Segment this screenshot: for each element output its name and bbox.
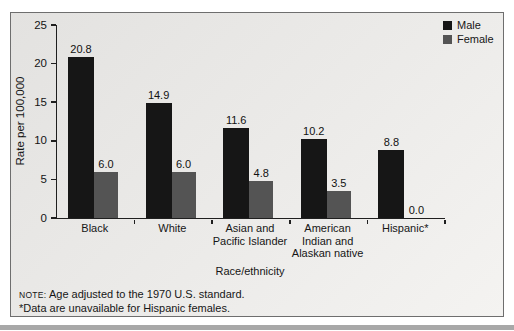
y-tick-label: 15: [21, 96, 47, 109]
note-prefix: NOTE:: [19, 290, 46, 300]
value-label-male-3: 10.2: [296, 125, 332, 137]
x-axis-title: Race/ethnicity: [56, 265, 444, 277]
y-tick-label: 10: [21, 134, 47, 147]
y-tick-label: 20: [21, 57, 47, 70]
category-label-4: Hispanic*: [358, 222, 452, 235]
y-tick-mark: [51, 101, 57, 103]
category-labels: BlackWhiteAsian and Pacific IslanderAmer…: [56, 222, 444, 262]
figure: Rate per 100,000 051015202520.814.911.61…: [0, 0, 514, 331]
legend-swatch-female: [443, 35, 452, 44]
y-tick-mark: [51, 63, 57, 65]
legend: MaleFemale: [443, 19, 494, 47]
bar-male-0: [68, 57, 94, 218]
y-tick-mark: [51, 24, 57, 26]
bar-female-1: [172, 172, 196, 218]
legend-label-female: Female: [457, 34, 494, 45]
value-label-female-1: 6.0: [166, 158, 202, 170]
legend-item-female: Female: [443, 33, 494, 46]
value-label-female-3: 3.5: [321, 177, 357, 189]
value-label-female-0: 6.0: [88, 158, 124, 170]
y-tick-label: 0: [21, 212, 47, 225]
notes: NOTE: Age adjusted to the 1970 U.S. stan…: [19, 288, 245, 315]
footnote: *Data are unavailable for Hispanic femal…: [19, 302, 245, 315]
y-tick-mark: [51, 179, 57, 181]
legend-item-male: Male: [443, 19, 494, 32]
value-label-female-2: 4.8: [243, 167, 279, 179]
bar-female-0: [94, 172, 118, 218]
y-tick-mark: [51, 217, 57, 219]
y-tick-mark: [51, 140, 57, 142]
y-tick-label: 5: [21, 173, 47, 186]
bottom-border-band: [0, 325, 514, 330]
value-label-female-4: 0.0: [398, 204, 434, 216]
value-label-male-1: 14.9: [141, 89, 177, 101]
y-tick-label: 25: [21, 19, 47, 32]
bar-female-2: [249, 181, 273, 218]
value-label-male-4: 8.8: [373, 136, 409, 148]
legend-swatch-male: [443, 21, 452, 30]
plot-area: 051015202520.814.911.610.28.86.06.04.83.…: [56, 25, 445, 219]
note-line: NOTE: Age adjusted to the 1970 U.S. stan…: [19, 288, 245, 302]
note-text: Age adjusted to the 1970 U.S. standard.: [46, 288, 244, 300]
legend-label-male: Male: [457, 20, 481, 31]
value-label-male-2: 11.6: [218, 114, 254, 126]
value-label-male-0: 20.8: [63, 43, 99, 55]
chart-panel: Rate per 100,000 051015202520.814.911.61…: [10, 12, 504, 317]
bar-female-3: [327, 191, 351, 218]
